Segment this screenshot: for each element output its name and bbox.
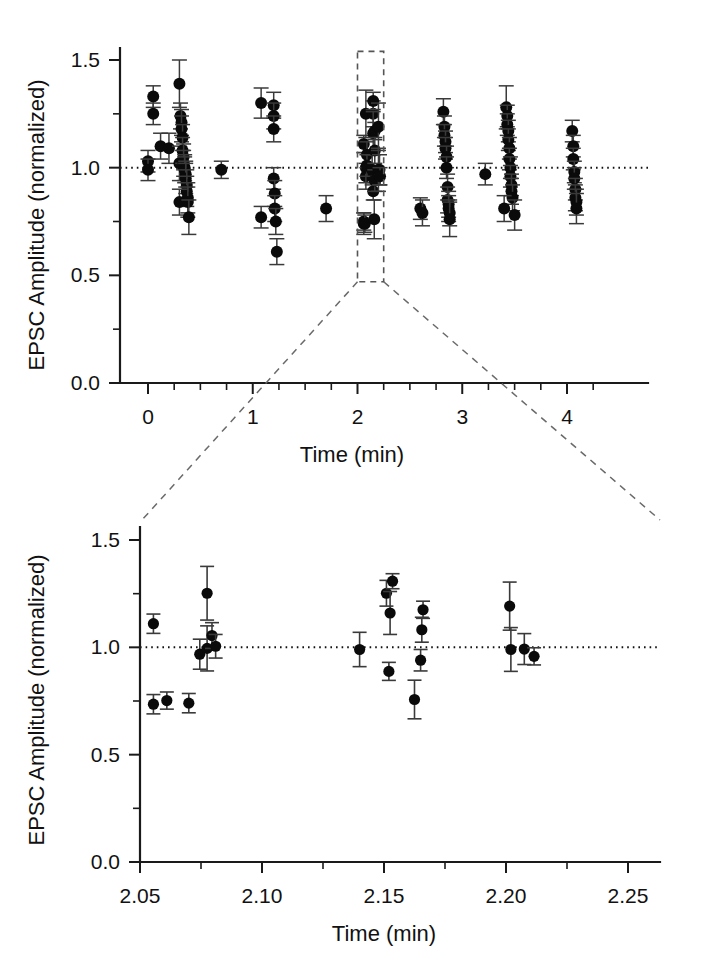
- data-marker: [498, 203, 510, 215]
- data-point: [214, 161, 229, 178]
- bottom-panel: 2.052.102.152.202.250.00.51.01.5 EPSC Am…: [24, 527, 660, 946]
- data-marker: [417, 604, 428, 615]
- data-marker: [255, 97, 267, 109]
- top-x-tick-label: 2: [352, 405, 364, 428]
- bot-x-tick-label: 2.25: [608, 884, 649, 907]
- bot-x-tick-label: 2.15: [364, 884, 405, 907]
- data-point: [266, 116, 281, 142]
- top-y-axis-label: EPSC Amplitude (normalized): [24, 79, 49, 370]
- data-point: [408, 680, 422, 719]
- data-marker: [570, 203, 582, 215]
- data-marker: [255, 211, 267, 223]
- top-tick-labels: 012340.00.51.01.5: [71, 48, 573, 428]
- data-marker: [444, 213, 456, 225]
- data-marker: [479, 168, 491, 180]
- data-marker: [519, 643, 530, 654]
- top-x-tick-label: 1: [247, 405, 259, 428]
- data-point: [254, 206, 269, 228]
- data-marker: [385, 607, 396, 618]
- data-marker: [163, 142, 175, 154]
- top-y-tick-label: 1.5: [71, 48, 100, 71]
- data-marker: [147, 108, 159, 120]
- top-y-tick-label: 0.0: [71, 371, 100, 394]
- data-marker: [268, 123, 280, 135]
- data-point: [414, 649, 428, 670]
- figure-container: 012340.00.51.01.5 EPSC Amplitude (normal…: [0, 0, 704, 977]
- data-marker: [182, 196, 194, 208]
- data-point: [160, 692, 174, 709]
- data-marker: [268, 172, 280, 184]
- data-point: [146, 103, 161, 125]
- top-x-tick-label: 3: [456, 405, 468, 428]
- data-point: [436, 99, 451, 125]
- data-marker: [270, 216, 282, 228]
- bot-axis-spine: [140, 527, 660, 862]
- data-marker: [505, 644, 516, 655]
- top-x-axis-label: Time (min): [300, 442, 404, 467]
- data-marker: [142, 164, 154, 176]
- data-point: [517, 634, 531, 665]
- data-marker: [567, 153, 579, 165]
- data-marker: [415, 655, 426, 666]
- data-marker: [387, 576, 398, 587]
- data-marker: [383, 666, 394, 677]
- bot-x-tick-label: 2.20: [486, 884, 527, 907]
- data-marker: [354, 644, 365, 655]
- bot-y-tick-label: 1.5: [91, 528, 120, 551]
- data-point: [266, 168, 281, 190]
- top-y-tick-label: 1.0: [71, 156, 100, 179]
- data-point: [200, 566, 214, 620]
- data-marker: [372, 121, 384, 133]
- data-marker: [320, 203, 332, 215]
- data-marker: [147, 91, 159, 103]
- data-point: [416, 601, 430, 618]
- data-marker: [183, 698, 194, 709]
- data-point: [565, 120, 580, 142]
- data-marker: [504, 601, 515, 612]
- data-marker: [183, 211, 195, 223]
- data-point: [172, 60, 187, 107]
- data-marker: [271, 246, 283, 258]
- data-point: [353, 632, 367, 666]
- data-marker: [210, 641, 221, 652]
- data-point: [415, 617, 429, 642]
- data-marker: [441, 162, 453, 174]
- data-point: [146, 614, 160, 633]
- data-point: [386, 574, 400, 589]
- zoom-leader-line-left: [142, 282, 358, 520]
- bot-x-tick-label: 2.10: [242, 884, 283, 907]
- bot-y-tick-label: 1.0: [91, 635, 120, 658]
- data-point: [146, 695, 160, 714]
- data-marker: [215, 164, 227, 176]
- bot-data-series: [146, 566, 541, 718]
- top-x-tick-label: 4: [561, 405, 573, 428]
- data-point: [382, 662, 396, 680]
- data-marker: [148, 699, 159, 710]
- data-point: [503, 582, 517, 630]
- data-point: [504, 628, 518, 672]
- top-data-series: [141, 60, 584, 265]
- data-point: [439, 157, 454, 179]
- data-marker: [509, 209, 521, 221]
- bottom-y-axis-label: EPSC Amplitude (normalized): [24, 554, 49, 845]
- data-marker: [416, 624, 427, 635]
- data-marker: [507, 192, 519, 204]
- data-marker: [409, 694, 420, 705]
- bot-y-tick-label: 0.5: [91, 743, 120, 766]
- bottom-tick-labels: 2.052.102.152.202.250.00.51.01.5: [91, 528, 649, 907]
- epsc-amplitude-figure: 012340.00.51.01.5 EPSC Amplitude (normal…: [0, 0, 704, 977]
- data-marker: [367, 95, 379, 107]
- top-x-tick-label: 0: [142, 405, 154, 428]
- data-marker: [202, 588, 213, 599]
- data-point: [269, 239, 284, 265]
- data-marker: [148, 618, 159, 629]
- data-marker: [161, 695, 172, 706]
- bot-x-tick-label: 2.05: [120, 884, 161, 907]
- data-point: [182, 693, 196, 712]
- bottom-plot-area: [140, 566, 660, 718]
- data-marker: [173, 78, 185, 90]
- top-y-tick-label: 0.5: [71, 263, 100, 286]
- data-point: [478, 163, 493, 185]
- data-point: [319, 196, 334, 222]
- bottom-x-axis-label: Time (min): [332, 921, 436, 946]
